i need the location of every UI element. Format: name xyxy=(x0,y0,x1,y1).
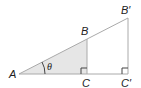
label-c: C xyxy=(82,77,90,88)
label-c-prime: C′ xyxy=(121,77,132,88)
label-a: A xyxy=(8,68,16,80)
right-angle-mark-c-prime xyxy=(122,68,128,74)
label-b: B xyxy=(81,25,88,37)
label-b-prime: B′ xyxy=(121,4,131,16)
label-theta: θ xyxy=(47,61,52,72)
triangle-diagram: A θ B C B′ C′ xyxy=(0,0,141,88)
